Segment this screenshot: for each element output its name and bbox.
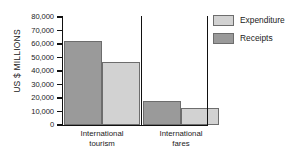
y-axis-title: US $ MILLIONS (12, 6, 22, 116)
legend-swatch-expenditure (213, 15, 234, 26)
group-divider-line (207, 16, 208, 126)
y-axis-tick-label: 0 (50, 120, 54, 129)
group-divider-line (141, 16, 142, 126)
y-axis-tick-label: 80,000 (31, 12, 54, 21)
y-axis-tick (57, 84, 62, 85)
y-axis-tick (57, 70, 62, 71)
y-axis-tick-label: 50,000 (31, 53, 54, 62)
y-axis-tick-label: 10,000 (31, 107, 54, 116)
legend-label: Expenditure (240, 15, 285, 25)
bar-receipts (64, 41, 102, 125)
legend-swatch-receipts (213, 33, 234, 44)
legend-item: Expenditure (213, 12, 285, 28)
x-axis-category-label: International fares (133, 129, 229, 148)
bar-chart: US $ MILLIONS 80,00070,00060,00050,00040… (0, 0, 297, 158)
chart-legend: ExpenditureReceipts (213, 12, 285, 48)
y-axis-tick (57, 16, 62, 17)
y-axis-tick (57, 111, 62, 112)
y-axis-tick (57, 57, 62, 58)
y-axis-tick-label: 70,000 (31, 26, 54, 35)
legend-label: Receipts (240, 33, 273, 43)
y-axis-tick (57, 97, 62, 98)
bar-receipts (143, 101, 181, 125)
y-axis-tick (57, 43, 62, 44)
y-axis-tick-label: 30,000 (31, 80, 54, 89)
y-axis-tick-label: 40,000 (31, 66, 54, 75)
x-axis-line (62, 125, 208, 126)
bar-expenditure (102, 62, 140, 125)
legend-item: Receipts (213, 30, 285, 46)
y-axis-tick-label: 20,000 (31, 93, 54, 102)
y-axis-tick (57, 30, 62, 31)
bar-expenditure (181, 108, 219, 125)
y-axis-tick (57, 124, 62, 125)
y-axis-tick-label: 60,000 (31, 39, 54, 48)
